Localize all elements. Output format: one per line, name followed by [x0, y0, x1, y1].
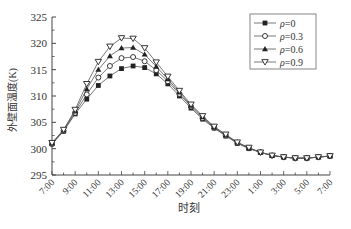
y-tick-label: 325 [31, 11, 48, 23]
x-tick-label: 17:00 [150, 177, 173, 200]
y-tick-label: 320 [31, 37, 48, 49]
x-tick-label: 19:00 [173, 177, 196, 200]
circle-marker [107, 63, 112, 68]
square-marker [142, 65, 147, 70]
square-marker [119, 66, 124, 71]
square-marker [131, 64, 136, 69]
circle-marker [96, 75, 101, 80]
x-axis-label: 时刻 [178, 201, 200, 214]
legend-label: ρ=0.9 [279, 57, 303, 68]
x-tick-label: 11:00 [81, 177, 103, 199]
triangle-marker [130, 45, 136, 50]
series-line [52, 66, 330, 158]
line-chart: 2953003053103153203257:009:0011:0013:001… [0, 0, 351, 229]
x-tick-label: 21:00 [196, 177, 219, 200]
down-triangle-marker [107, 44, 113, 49]
x-tick-label: 15:00 [127, 177, 150, 200]
circle-marker [131, 55, 136, 60]
y-tick-label: 315 [31, 64, 48, 76]
x-tick-label: 5:00 [292, 177, 311, 196]
square-marker [96, 83, 101, 88]
y-tick-label: 300 [31, 143, 48, 155]
square-marker [108, 74, 113, 79]
y-tick-label: 295 [31, 169, 48, 181]
x-tick-label: 13:00 [104, 177, 127, 200]
y-tick-label: 310 [31, 90, 48, 102]
down-triangle-marker [95, 59, 101, 64]
series-0 [50, 64, 333, 161]
legend-label: ρ=0.3 [279, 31, 303, 42]
square-marker [263, 21, 268, 26]
legend-label: ρ=0 [279, 18, 295, 29]
legend-label: ρ=0.6 [279, 44, 303, 55]
x-tick-label: 9:00 [61, 177, 80, 196]
circle-marker [119, 56, 124, 61]
x-tick-label: 7:00 [315, 177, 334, 196]
x-tick-label: 1:00 [246, 177, 265, 196]
x-tick-label: 3:00 [269, 177, 288, 196]
circle-marker [142, 59, 147, 64]
y-axis-label: 外壁面温度(K) [6, 68, 19, 132]
legend: ρ=0ρ=0.3ρ=0.6ρ=0.9 [250, 14, 316, 69]
x-tick-label: 23:00 [219, 177, 242, 200]
triangle-marker [107, 53, 113, 58]
y-tick-label: 305 [31, 116, 48, 128]
circle-marker [263, 34, 268, 39]
triangle-marker [142, 51, 148, 56]
